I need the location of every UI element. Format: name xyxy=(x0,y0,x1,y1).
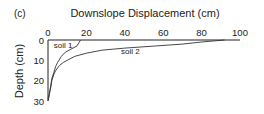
x-tick-label: 80 xyxy=(196,27,207,38)
x-axis-title: Downslope Displacement (cm) xyxy=(70,7,219,19)
x-tick-label: 40 xyxy=(120,27,131,38)
axes xyxy=(48,40,240,101)
x-tick-label: 0 xyxy=(45,27,50,38)
series-label: soil 1 xyxy=(54,41,73,50)
tick-labels: 0204060801000102030 xyxy=(33,27,248,107)
y-tick-label: 20 xyxy=(33,75,44,86)
series-label: soil 2 xyxy=(121,47,140,56)
y-axis-title: Depth (cm) xyxy=(13,44,25,98)
chart: (c) Downslope Displacement (cm) Depth (c… xyxy=(0,0,264,114)
y-tick-label: 10 xyxy=(33,55,44,66)
panel-label: (c) xyxy=(14,8,26,19)
y-tick-label: 30 xyxy=(33,96,44,107)
x-tick-label: 20 xyxy=(81,27,92,38)
y-tick-label: 0 xyxy=(39,35,44,46)
x-tick-label: 100 xyxy=(232,27,248,38)
annotations: soil 1soil 2 xyxy=(54,41,140,56)
x-tick-label: 60 xyxy=(158,27,169,38)
